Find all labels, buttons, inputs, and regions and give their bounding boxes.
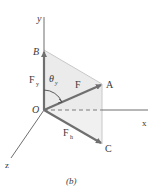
figure-caption: (b) [66, 176, 77, 186]
point-B-label: B [33, 46, 39, 57]
point-A-label: A [106, 79, 114, 90]
vector-Fy-subscript: y [36, 81, 39, 87]
vector-F-label: F [75, 79, 81, 90]
vector-Fy-label: F [29, 74, 35, 85]
z-axis-label: z [5, 160, 9, 170]
vector-Fh-label: F [63, 127, 69, 138]
angle-theta-subscript: y [54, 80, 58, 86]
origin-label: O [32, 104, 39, 115]
vector-Fh-subscript: h [70, 134, 73, 140]
x-axis-label: x [142, 118, 147, 128]
z-axis [11, 110, 44, 158]
y-axis-label: y [36, 13, 42, 24]
point-C-label: C [105, 143, 112, 154]
vector-components-diagram: y x z B A C O F F y F h θ y (b) [0, 0, 154, 194]
angle-theta-label: θ [49, 73, 54, 84]
